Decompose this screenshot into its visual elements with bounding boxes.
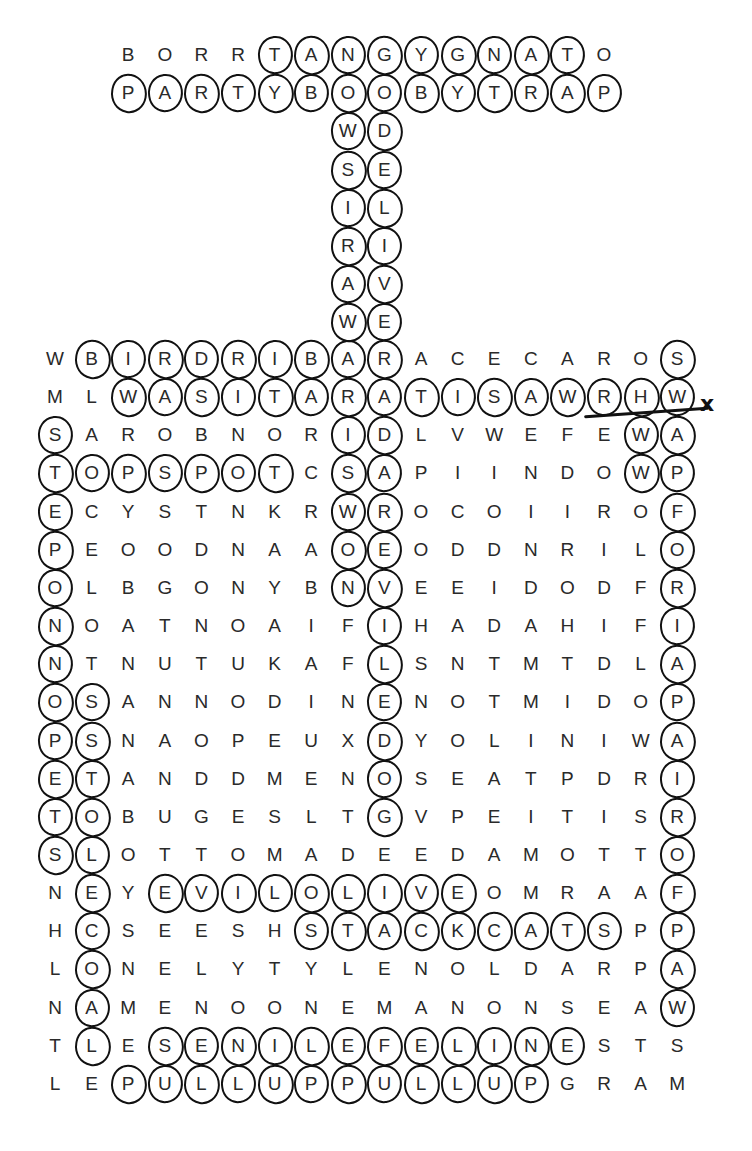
grid-cell[interactable]: N xyxy=(513,989,549,1027)
grid-cell[interactable]: S xyxy=(37,416,73,454)
grid-cell[interactable]: L xyxy=(403,416,439,454)
grid-cell[interactable]: R xyxy=(586,493,622,531)
grid-cell[interactable]: A xyxy=(476,836,512,874)
grid-cell[interactable]: M xyxy=(659,1065,695,1103)
grid-cell[interactable]: L xyxy=(623,645,659,683)
grid-cell[interactable]: S xyxy=(586,912,622,950)
grid-cell[interactable]: E xyxy=(147,874,183,912)
grid-cell[interactable]: E xyxy=(293,760,329,798)
grid-cell[interactable]: O xyxy=(110,531,146,569)
grid-cell[interactable]: I xyxy=(513,798,549,836)
grid-cell[interactable]: U xyxy=(147,798,183,836)
grid-cell[interactable]: N xyxy=(440,645,476,683)
grid-cell[interactable]: E xyxy=(586,989,622,1027)
grid-cell[interactable]: N xyxy=(330,683,366,721)
grid-cell[interactable]: N xyxy=(37,874,73,912)
grid-cell[interactable]: D xyxy=(183,531,219,569)
grid-cell[interactable]: O xyxy=(403,493,439,531)
grid-cell[interactable]: O xyxy=(549,569,585,607)
grid-cell[interactable]: E xyxy=(183,1027,219,1065)
grid-cell[interactable]: P xyxy=(659,912,695,950)
grid-cell[interactable]: A xyxy=(257,531,293,569)
grid-cell[interactable]: N xyxy=(220,569,256,607)
grid-cell[interactable]: P xyxy=(549,760,585,798)
grid-cell[interactable]: F xyxy=(366,1027,402,1065)
grid-cell[interactable]: A xyxy=(549,950,585,988)
grid-cell[interactable]: I xyxy=(366,227,402,265)
grid-cell[interactable]: E xyxy=(330,989,366,1027)
grid-cell[interactable]: O xyxy=(623,683,659,721)
grid-cell[interactable]: F xyxy=(659,493,695,531)
grid-cell[interactable]: L xyxy=(257,874,293,912)
grid-cell[interactable]: D xyxy=(220,760,256,798)
grid-cell[interactable]: P xyxy=(110,454,146,492)
grid-cell[interactable]: R xyxy=(586,340,622,378)
grid-cell[interactable]: L xyxy=(366,645,402,683)
grid-cell[interactable]: Y xyxy=(257,569,293,607)
grid-cell[interactable]: T xyxy=(476,74,512,112)
grid-cell[interactable]: L xyxy=(183,950,219,988)
grid-cell[interactable]: V xyxy=(366,569,402,607)
grid-cell[interactable]: E xyxy=(586,416,622,454)
grid-cell[interactable]: O xyxy=(659,836,695,874)
grid-cell[interactable]: N xyxy=(403,683,439,721)
grid-cell[interactable]: D xyxy=(476,531,512,569)
grid-cell[interactable]: O xyxy=(74,798,110,836)
grid-cell[interactable]: A xyxy=(293,531,329,569)
grid-cell[interactable]: Y xyxy=(257,74,293,112)
grid-cell[interactable]: S xyxy=(659,340,695,378)
grid-cell[interactable]: A xyxy=(513,607,549,645)
grid-cell[interactable]: N xyxy=(37,645,73,683)
grid-cell[interactable]: T xyxy=(37,454,73,492)
grid-cell[interactable]: I xyxy=(513,722,549,760)
grid-cell[interactable]: M xyxy=(37,378,73,416)
grid-cell[interactable]: R xyxy=(147,340,183,378)
grid-cell[interactable]: L xyxy=(220,1065,256,1103)
grid-cell[interactable]: I xyxy=(110,340,146,378)
grid-cell[interactable]: Y xyxy=(403,722,439,760)
grid-cell[interactable]: A xyxy=(659,645,695,683)
grid-cell[interactable]: N xyxy=(220,1027,256,1065)
grid-cell[interactable]: G xyxy=(147,569,183,607)
grid-cell[interactable]: I xyxy=(330,189,366,227)
grid-cell[interactable]: F xyxy=(623,607,659,645)
grid-cell[interactable]: P xyxy=(37,722,73,760)
grid-cell[interactable]: E xyxy=(366,683,402,721)
grid-cell[interactable]: L xyxy=(623,531,659,569)
grid-cell[interactable]: A xyxy=(257,607,293,645)
grid-cell[interactable]: T xyxy=(330,912,366,950)
grid-cell[interactable]: P xyxy=(513,1065,549,1103)
grid-cell[interactable]: O xyxy=(623,340,659,378)
grid-cell[interactable]: S xyxy=(330,151,366,189)
grid-cell[interactable]: I xyxy=(659,607,695,645)
grid-cell[interactable]: C xyxy=(403,912,439,950)
grid-cell[interactable]: I xyxy=(330,416,366,454)
grid-cell[interactable]: O xyxy=(586,36,622,74)
grid-cell[interactable]: A xyxy=(659,416,695,454)
grid-cell[interactable]: N xyxy=(440,989,476,1027)
grid-cell[interactable]: W xyxy=(330,112,366,150)
grid-cell[interactable]: O xyxy=(476,874,512,912)
grid-cell[interactable]: S xyxy=(147,493,183,531)
grid-cell[interactable]: H xyxy=(257,912,293,950)
grid-cell[interactable]: D xyxy=(366,722,402,760)
grid-cell[interactable]: A xyxy=(110,607,146,645)
grid-cell[interactable]: T xyxy=(549,798,585,836)
grid-cell[interactable]: L xyxy=(403,1065,439,1103)
grid-cell[interactable]: I xyxy=(293,683,329,721)
grid-cell[interactable]: R xyxy=(293,493,329,531)
grid-cell[interactable]: O xyxy=(74,950,110,988)
grid-cell[interactable]: S xyxy=(586,1027,622,1065)
grid-cell[interactable]: T xyxy=(257,454,293,492)
grid-cell[interactable]: E xyxy=(220,798,256,836)
grid-cell[interactable]: O xyxy=(659,531,695,569)
grid-cell[interactable]: T xyxy=(74,760,110,798)
grid-cell[interactable]: E xyxy=(110,1027,146,1065)
grid-cell[interactable]: S xyxy=(623,798,659,836)
grid-cell[interactable]: A xyxy=(549,74,585,112)
grid-cell[interactable]: O xyxy=(549,836,585,874)
grid-cell[interactable]: H xyxy=(37,912,73,950)
grid-cell[interactable]: C xyxy=(440,340,476,378)
grid-cell[interactable]: O xyxy=(330,531,366,569)
grid-cell[interactable]: T xyxy=(37,1027,73,1065)
